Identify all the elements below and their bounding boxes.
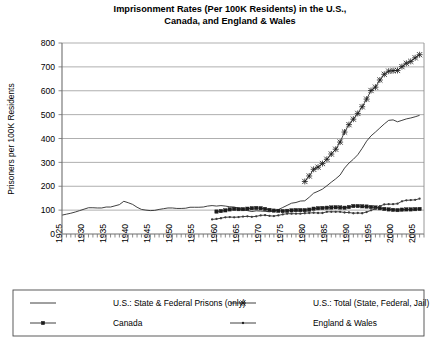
data-point-marker xyxy=(405,199,407,201)
x-tick-label: 1940 xyxy=(120,224,130,243)
data-point-marker xyxy=(219,209,222,212)
data-point-marker xyxy=(321,206,324,209)
data-point-marker xyxy=(414,199,416,201)
data-point-marker xyxy=(352,212,354,214)
chart-background xyxy=(0,0,439,346)
y-tick-label: 800 xyxy=(41,38,56,48)
x-tick-label: 1975 xyxy=(275,224,285,243)
x-tick-label: 1945 xyxy=(142,224,152,243)
data-point-marker xyxy=(352,204,355,207)
data-point-marker xyxy=(339,211,341,213)
legend-label: U.S.: State & Federal Prisons (only) xyxy=(113,298,246,308)
chart-title-line2: Canada, and England & Wales xyxy=(164,16,295,26)
data-point-marker xyxy=(392,203,394,205)
data-point-marker xyxy=(343,211,345,213)
data-point-marker xyxy=(229,216,231,218)
data-point-marker xyxy=(233,216,235,218)
data-point-marker xyxy=(356,204,359,207)
data-point-marker xyxy=(326,211,328,213)
data-point-marker xyxy=(250,207,253,210)
data-point-marker xyxy=(383,203,385,205)
data-point-marker xyxy=(41,321,44,324)
data-point-marker xyxy=(224,209,227,212)
x-tick-label: 1965 xyxy=(231,224,241,243)
data-point-marker xyxy=(357,212,359,214)
x-tick-label: 1930 xyxy=(76,224,86,243)
data-point-marker xyxy=(259,207,262,210)
data-point-marker xyxy=(255,215,257,217)
data-point-marker xyxy=(264,214,266,216)
data-point-marker xyxy=(290,209,293,212)
data-point-marker xyxy=(246,215,248,217)
data-point-marker xyxy=(396,203,398,205)
data-point-marker xyxy=(299,208,302,211)
data-point-marker xyxy=(251,216,253,218)
data-point-marker xyxy=(255,206,258,209)
legend-label: U.S.: Total (State, Federal, Jail) xyxy=(313,298,429,308)
data-point-marker xyxy=(325,206,328,209)
data-point-marker xyxy=(228,208,231,211)
data-point-marker xyxy=(335,211,337,213)
data-point-marker xyxy=(277,209,280,212)
data-point-marker xyxy=(272,209,275,212)
data-point-marker xyxy=(268,215,270,217)
data-point-marker xyxy=(260,214,262,216)
data-point-marker xyxy=(224,216,226,218)
data-point-marker xyxy=(409,208,412,211)
data-point-marker xyxy=(286,213,288,215)
y-tick-label: 300 xyxy=(41,158,56,168)
data-point-marker xyxy=(242,215,244,217)
data-point-marker xyxy=(387,208,390,211)
data-point-marker xyxy=(348,211,350,213)
x-tick-label: 2005 xyxy=(407,224,417,243)
data-point-marker xyxy=(413,207,416,210)
x-tick-label: 1955 xyxy=(186,224,196,243)
data-point-marker xyxy=(246,207,249,210)
data-point-marker xyxy=(285,209,288,212)
data-point-marker xyxy=(295,213,297,215)
x-tick-label: 1950 xyxy=(164,224,174,243)
chart-svg: Imprisonment Rates (Per 100K Residents) … xyxy=(0,0,439,346)
legend-label: Canada xyxy=(113,318,143,328)
data-point-marker xyxy=(308,208,311,211)
y-tick-label: 400 xyxy=(41,134,56,144)
x-tick-label: 1995 xyxy=(363,224,373,243)
data-point-marker xyxy=(312,212,314,214)
y-axis-title: Prisoners per 100K Residents xyxy=(6,83,16,194)
x-tick-label: 1970 xyxy=(253,224,263,243)
data-point-marker xyxy=(299,213,301,215)
data-point-marker xyxy=(220,217,222,219)
x-tick-label: 1980 xyxy=(297,224,307,243)
data-point-marker xyxy=(308,212,310,214)
data-point-marker xyxy=(374,208,376,210)
x-tick-label: 2000 xyxy=(385,224,395,243)
data-point-marker xyxy=(347,205,350,208)
data-point-marker xyxy=(263,207,266,210)
data-point-marker xyxy=(401,200,403,202)
data-point-marker xyxy=(304,212,306,214)
data-point-marker xyxy=(242,322,244,324)
data-point-marker xyxy=(418,198,420,200)
x-tick-label: 1960 xyxy=(209,224,219,243)
data-point-marker xyxy=(365,211,367,213)
data-point-marker xyxy=(418,207,421,210)
data-point-marker xyxy=(237,207,240,210)
data-point-marker xyxy=(237,216,239,218)
data-point-marker xyxy=(396,208,399,211)
data-point-marker xyxy=(400,208,403,211)
data-point-marker xyxy=(241,207,244,210)
data-point-marker xyxy=(232,207,235,210)
data-point-marker xyxy=(365,205,368,208)
data-point-marker xyxy=(330,211,332,213)
data-point-marker xyxy=(343,206,346,209)
data-point-marker xyxy=(330,206,333,209)
imprisonment-rates-chart: Imprisonment Rates (Per 100K Residents) … xyxy=(0,0,439,346)
y-tick-label: 700 xyxy=(41,62,56,72)
data-point-marker xyxy=(405,208,408,211)
data-point-marker xyxy=(410,199,412,201)
data-point-marker xyxy=(383,207,386,210)
data-point-marker xyxy=(334,206,337,209)
data-point-marker xyxy=(268,208,271,211)
data-point-marker xyxy=(273,215,275,217)
legend-label: England & Wales xyxy=(313,318,377,328)
